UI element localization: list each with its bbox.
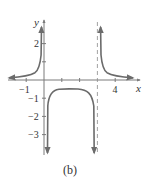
y-tick-label-2: 2 [34,38,39,49]
y-tick-label-neg3: −3 [28,129,39,140]
curve-right-branch [101,27,133,78]
x-tick-label-4: 4 [113,84,118,95]
curve-left-branch [9,27,42,78]
figure-caption: (b) [63,163,77,177]
y-tick-label-neg2: −2 [28,111,39,122]
graph: y x −1 4 2 −1 −2 −3 (b) [0,0,149,188]
y-tick-label-neg1: −1 [28,93,39,104]
y-axis-label: y [33,16,39,28]
x-axis-label: x [135,82,141,94]
curve-middle-branch [48,89,95,153]
